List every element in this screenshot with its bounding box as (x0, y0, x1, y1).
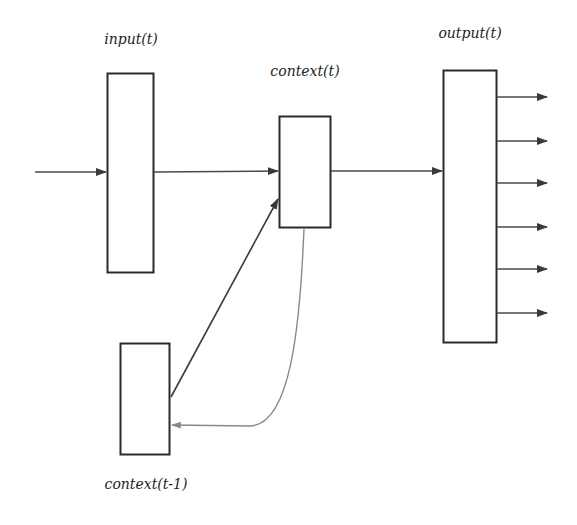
diagram-canvas: input(t) output(t) context(t) context(t-… (0, 0, 577, 525)
context-copy-curve-arrow (172, 228, 304, 426)
output-node-label: output(t) (438, 25, 501, 41)
input-node-label: input(t) (104, 31, 158, 47)
context-node-box (280, 117, 331, 228)
output-arrows (497, 97, 547, 313)
context-prev-to-context-arrow (171, 199, 278, 397)
context-node-label: context(t) (270, 63, 339, 79)
input-to-context-arrow (154, 171, 278, 172)
context-prev-node-box (121, 344, 170, 455)
input-node-box (108, 74, 154, 273)
output-node-box (444, 71, 497, 343)
context-prev-node-label: context(t-1) (105, 476, 188, 492)
